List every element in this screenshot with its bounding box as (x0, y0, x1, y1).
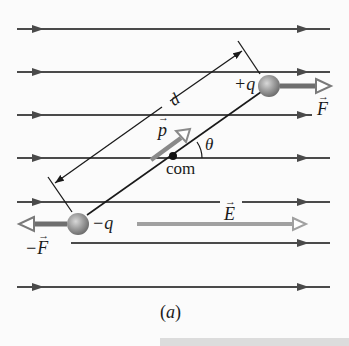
hollow-arrowhead-icon (19, 217, 34, 231)
dimension-line-lower (55, 107, 162, 183)
negative-charge-sphere (67, 213, 89, 235)
negative-charge-label: −q (92, 214, 113, 232)
positive-charge-label: +q (234, 75, 255, 93)
negative-force-symbol: F (37, 239, 48, 257)
force-label: F (317, 100, 328, 118)
figure-caption: (a) (160, 303, 181, 321)
extension-tick-top (238, 41, 260, 74)
negative-force-label: −F (25, 239, 48, 257)
field-arrow-icon (297, 283, 309, 291)
angle-arc (197, 142, 202, 158)
field-arrow-icon (32, 154, 44, 162)
field-vector-arrow (137, 218, 306, 230)
hollow-arrowhead-icon (293, 218, 306, 230)
dipole-figure: +q −q F −F E p θ com d (a) (0, 0, 349, 346)
dipole-moment-label: p (158, 121, 167, 139)
page-edge-band (160, 338, 349, 346)
field-arrow-icon (297, 239, 309, 247)
field-arrow-icon (297, 68, 309, 76)
field-arrow-icon (297, 154, 309, 162)
angle-label: θ (205, 136, 213, 153)
dimension-line-upper (170, 51, 242, 101)
extension-tick-bottom (48, 177, 72, 212)
field-arrow-icon (32, 198, 44, 206)
figure-caption-letter: a (166, 302, 175, 322)
center-of-mass-label: com (166, 160, 195, 177)
field-arrow-icon (297, 25, 309, 33)
field-arrow-icon (32, 283, 44, 291)
negative-force-sign: − (25, 238, 37, 258)
field-arrow-icon (297, 198, 309, 206)
field-arrow-icon (32, 68, 44, 76)
field-arrow-icon (32, 111, 44, 119)
positive-charge-sphere (258, 75, 280, 97)
separation-dimension (48, 41, 260, 212)
field-label: E (224, 205, 235, 223)
field-arrow-icon (32, 25, 44, 33)
field-arrow-icon (297, 111, 309, 119)
